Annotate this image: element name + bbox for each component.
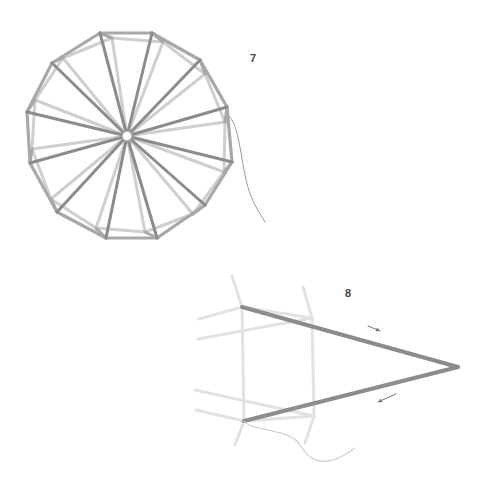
faint-straw: [232, 276, 242, 307]
outer-ring-straw: [227, 107, 232, 162]
faint-straw: [242, 307, 244, 421]
faint-straw: [303, 287, 312, 318]
dark-spoke: [52, 63, 127, 136]
inner-ring-straw: [32, 100, 35, 149]
step-number-8: 8: [345, 287, 351, 299]
joint-straw: [30, 149, 32, 163]
polyhedral-wheel-figure: [27, 33, 265, 238]
faint-straw: [199, 307, 242, 319]
thread: [229, 116, 265, 222]
dark-spoke: [57, 136, 127, 212]
top-v-straw: [242, 307, 458, 367]
bottom-v-straw: [244, 367, 458, 421]
joint-straw: [225, 107, 227, 122]
step-number-7: 7: [250, 52, 256, 64]
outer-ring-straw: [27, 112, 30, 163]
inner-ring-straw: [112, 38, 163, 42]
inner-ring-straw: [35, 58, 63, 100]
faint-straw: [195, 390, 314, 416]
inner-ring-straw: [224, 122, 225, 172]
hub-icon: [122, 131, 132, 141]
diagram-canvas: [0, 0, 488, 482]
inner-ring-straw: [96, 228, 145, 232]
faint-straw: [235, 421, 244, 445]
faint-straw: [305, 416, 314, 443]
faint-straw: [312, 318, 314, 416]
v-point-figure: [195, 276, 458, 461]
inner-ring-straw: [193, 172, 224, 214]
faint-straw: [196, 410, 244, 421]
thread: [244, 421, 355, 461]
